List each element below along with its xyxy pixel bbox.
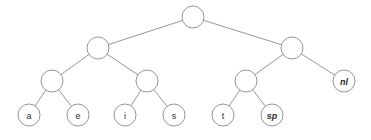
node-label: e: [75, 111, 80, 121]
tree-leaf-node: nl: [333, 70, 355, 92]
node-circle: [87, 37, 109, 59]
tree-leaf-node: sp: [261, 104, 283, 126]
tree-edge: [204, 20, 282, 44]
node-label: nl: [340, 77, 348, 87]
tree-leaf-node: e: [67, 104, 89, 126]
tree-internal-node: [87, 37, 109, 59]
tree-edge: [154, 90, 167, 107]
node-circle: [136, 70, 158, 92]
node-label: s: [172, 111, 177, 121]
tree-edge: [107, 54, 138, 75]
tree-internal-node: [136, 70, 158, 92]
tree-internal-node: [41, 70, 63, 92]
node-circle: [235, 70, 257, 92]
node-label: sp: [267, 111, 278, 121]
tree-internal-node: [182, 6, 204, 28]
tree-edge: [108, 20, 182, 44]
tree-edge: [255, 54, 283, 74]
binary-tree-diagram: nlaeistsp: [0, 0, 371, 140]
tree-edge: [253, 90, 266, 107]
node-circle: [182, 6, 204, 28]
tree-edge: [131, 90, 141, 106]
tree-internal-node: [281, 37, 303, 59]
node-layer: nlaeistsp: [18, 6, 355, 126]
tree-edge: [35, 90, 46, 106]
tree-internal-node: [235, 70, 257, 92]
tree-leaf-node: t: [212, 104, 234, 126]
tree-edge: [301, 54, 334, 75]
edge-layer: [35, 20, 335, 106]
tree-leaf-node: a: [18, 104, 40, 126]
node-label: a: [26, 111, 31, 121]
tree-edge: [229, 90, 240, 106]
tree-canvas: nlaeistsp: [0, 0, 371, 140]
node-circle: [41, 70, 63, 92]
node-circle: [281, 37, 303, 59]
node-label: i: [124, 111, 126, 121]
tree-edge: [59, 90, 72, 107]
tree-edge: [61, 54, 89, 74]
tree-leaf-node: s: [163, 104, 185, 126]
tree-leaf-node: i: [114, 104, 136, 126]
